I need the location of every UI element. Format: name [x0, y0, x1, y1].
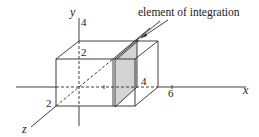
z-tick-label-2: 2: [46, 97, 52, 109]
x-axis-label: x: [242, 83, 249, 97]
integration-diagram: y 4 2 2 z 6 x 4 element of integration: [0, 0, 259, 137]
callout-leader: [137, 20, 168, 40]
box-depth-edges: [56, 41, 158, 106]
x-tick-label-6: 6: [168, 87, 174, 99]
callout-text: element of integration: [138, 6, 240, 19]
y-axis-label: y: [69, 5, 76, 19]
z-axis-label: z: [21, 122, 27, 136]
y-tick-label-4: 4: [81, 16, 87, 28]
y-tick-label-2: 2: [81, 46, 87, 58]
box-dimension-label: 4: [141, 75, 147, 87]
